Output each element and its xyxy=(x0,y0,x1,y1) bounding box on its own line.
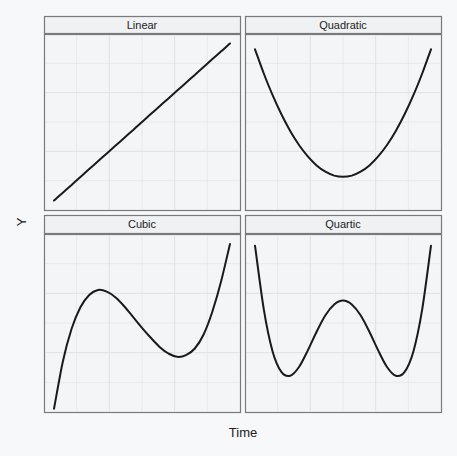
panel-background xyxy=(246,35,442,211)
panel-background xyxy=(246,235,442,413)
facet-label: Quadratic xyxy=(319,19,367,31)
x-axis-title: Time xyxy=(229,425,257,440)
panel-quartic: Quartic xyxy=(246,216,442,413)
facet-label: Linear xyxy=(127,19,158,31)
panel-linear: Linear xyxy=(45,17,241,211)
panel-quadratic: Quadratic xyxy=(246,17,442,211)
panel-grid: LinearQuadraticCubicQuartic xyxy=(45,17,442,413)
panel-cubic: Cubic xyxy=(45,216,241,413)
faceted-line-chart: LinearQuadraticCubicQuartic Y Time xyxy=(0,0,457,456)
facet-label: Quartic xyxy=(325,218,361,230)
y-axis-title: Y xyxy=(14,217,29,226)
facet-label: Cubic xyxy=(128,218,157,230)
